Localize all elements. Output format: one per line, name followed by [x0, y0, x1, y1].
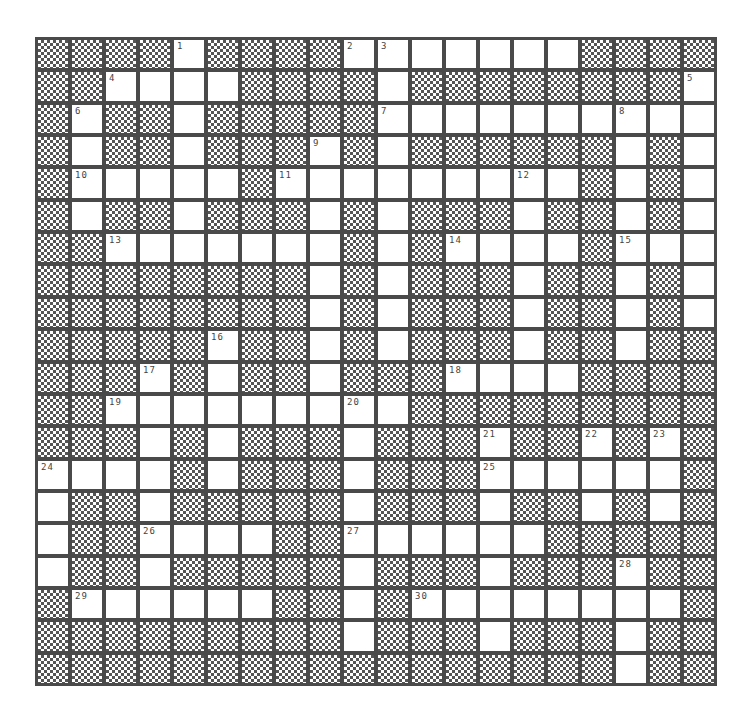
open-cell[interactable]: 7 [378, 105, 408, 133]
open-cell[interactable] [242, 396, 272, 424]
open-cell[interactable]: 27 [344, 525, 374, 553]
open-cell[interactable] [174, 590, 204, 618]
open-cell[interactable] [514, 40, 544, 68]
open-cell[interactable] [514, 364, 544, 392]
open-cell[interactable] [208, 169, 238, 197]
open-cell[interactable] [310, 202, 340, 230]
open-cell[interactable] [514, 461, 544, 489]
open-cell[interactable] [378, 234, 408, 262]
open-cell[interactable] [514, 266, 544, 294]
open-cell[interactable] [310, 331, 340, 359]
open-cell[interactable]: 14 [446, 234, 476, 262]
open-cell[interactable] [310, 299, 340, 327]
open-cell[interactable]: 20 [344, 396, 374, 424]
open-cell[interactable]: 21 [480, 428, 510, 456]
open-cell[interactable] [344, 461, 374, 489]
open-cell[interactable] [548, 40, 578, 68]
open-cell[interactable] [276, 234, 306, 262]
open-cell[interactable] [140, 590, 170, 618]
open-cell[interactable] [548, 234, 578, 262]
open-cell[interactable]: 8 [616, 105, 646, 133]
open-cell[interactable]: 5 [684, 72, 714, 100]
open-cell[interactable] [650, 461, 680, 489]
open-cell[interactable] [378, 137, 408, 165]
open-cell[interactable] [378, 525, 408, 553]
open-cell[interactable] [72, 202, 102, 230]
open-cell[interactable] [582, 461, 612, 489]
open-cell[interactable] [378, 396, 408, 424]
open-cell[interactable] [38, 558, 68, 586]
open-cell[interactable] [480, 105, 510, 133]
open-cell[interactable] [208, 72, 238, 100]
open-cell[interactable] [208, 428, 238, 456]
open-cell[interactable] [412, 525, 442, 553]
open-cell[interactable] [514, 105, 544, 133]
open-cell[interactable] [310, 234, 340, 262]
open-cell[interactable]: 3 [378, 40, 408, 68]
open-cell[interactable]: 16 [208, 331, 238, 359]
open-cell[interactable] [174, 202, 204, 230]
open-cell[interactable]: 1 [174, 40, 204, 68]
open-cell[interactable] [582, 590, 612, 618]
open-cell[interactable] [650, 590, 680, 618]
open-cell[interactable]: 18 [446, 364, 476, 392]
open-cell[interactable] [378, 202, 408, 230]
open-cell[interactable] [174, 525, 204, 553]
open-cell[interactable] [140, 461, 170, 489]
open-cell[interactable]: 29 [72, 590, 102, 618]
open-cell[interactable] [344, 493, 374, 521]
open-cell[interactable]: 6 [72, 105, 102, 133]
open-cell[interactable] [480, 558, 510, 586]
open-cell[interactable] [174, 72, 204, 100]
open-cell[interactable] [310, 364, 340, 392]
open-cell[interactable] [106, 169, 136, 197]
open-cell[interactable] [548, 169, 578, 197]
open-cell[interactable] [106, 461, 136, 489]
open-cell[interactable] [616, 590, 646, 618]
open-cell[interactable] [174, 234, 204, 262]
open-cell[interactable]: 30 [412, 590, 442, 618]
open-cell[interactable] [72, 461, 102, 489]
open-cell[interactable] [616, 266, 646, 294]
open-cell[interactable] [616, 202, 646, 230]
open-cell[interactable] [208, 525, 238, 553]
open-cell[interactable] [616, 137, 646, 165]
open-cell[interactable] [378, 299, 408, 327]
open-cell[interactable] [344, 558, 374, 586]
open-cell[interactable] [310, 169, 340, 197]
open-cell[interactable] [242, 234, 272, 262]
open-cell[interactable]: 23 [650, 428, 680, 456]
open-cell[interactable] [140, 396, 170, 424]
open-cell[interactable] [616, 655, 646, 683]
open-cell[interactable] [174, 169, 204, 197]
open-cell[interactable] [140, 72, 170, 100]
open-cell[interactable] [38, 493, 68, 521]
open-cell[interactable] [174, 137, 204, 165]
open-cell[interactable] [140, 558, 170, 586]
open-cell[interactable] [242, 590, 272, 618]
open-cell[interactable] [140, 169, 170, 197]
open-cell[interactable] [616, 461, 646, 489]
open-cell[interactable] [684, 234, 714, 262]
open-cell[interactable]: 17 [140, 364, 170, 392]
open-cell[interactable] [208, 396, 238, 424]
open-cell[interactable] [582, 493, 612, 521]
open-cell[interactable] [140, 234, 170, 262]
open-cell[interactable] [480, 590, 510, 618]
open-cell[interactable] [480, 525, 510, 553]
open-cell[interactable] [582, 105, 612, 133]
open-cell[interactable]: 25 [480, 461, 510, 489]
open-cell[interactable] [378, 169, 408, 197]
open-cell[interactable]: 11 [276, 169, 306, 197]
open-cell[interactable] [140, 428, 170, 456]
open-cell[interactable] [412, 169, 442, 197]
open-cell[interactable] [174, 396, 204, 424]
open-cell[interactable]: 13 [106, 234, 136, 262]
open-cell[interactable] [310, 396, 340, 424]
open-cell[interactable] [684, 266, 714, 294]
open-cell[interactable] [684, 169, 714, 197]
open-cell[interactable]: 22 [582, 428, 612, 456]
open-cell[interactable] [208, 364, 238, 392]
open-cell[interactable] [514, 202, 544, 230]
open-cell[interactable] [480, 364, 510, 392]
